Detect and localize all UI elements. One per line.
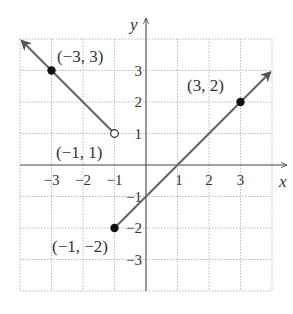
label-3-2: (3, 2)	[187, 76, 224, 95]
x-tick: 2	[205, 172, 213, 188]
label-m1-m2: (−1, −2)	[52, 237, 108, 256]
y-tick: 2	[135, 94, 143, 110]
x-tick: 1	[175, 172, 183, 188]
x-axis-label: x	[278, 172, 287, 191]
x-tick: −2	[75, 172, 91, 188]
y-tick: 1	[135, 126, 143, 142]
y-tick: −2	[126, 220, 142, 236]
y-axis-label: y	[128, 15, 138, 34]
y-tick: −3	[126, 252, 142, 268]
open-point-m1-1	[111, 130, 119, 138]
closed-point-3-2	[236, 98, 244, 106]
piecewise-graph: x y −3 −2 −1 1 2 3 3 2 1 −1 −2 −3 (−3, 3…	[0, 0, 293, 314]
closed-point-m1-m2	[110, 224, 118, 232]
y-tick: 3	[135, 63, 143, 79]
label-m1-1: (−1, 1)	[56, 143, 102, 162]
x-tick: −1	[107, 172, 123, 188]
x-tick: −3	[44, 172, 60, 188]
closed-point-m3-3	[47, 66, 55, 74]
label-m3-3: (−3, 3)	[57, 47, 103, 66]
x-tick: 3	[237, 172, 245, 188]
x-tick-labels: −3 −2 −1 1 2 3	[44, 172, 245, 188]
